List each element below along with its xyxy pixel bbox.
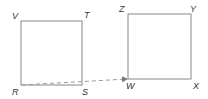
label-v: V [12, 11, 19, 21]
label-s: S [82, 87, 88, 97]
label-r: R [12, 87, 19, 97]
label-w: W [126, 81, 136, 91]
dashed-arrow-r-to-w [22, 79, 127, 85]
label-x: X [192, 81, 200, 91]
diagram-canvas: V T R S Z Y W X [0, 0, 208, 99]
square-rstv [21, 21, 82, 85]
label-z: Z [118, 4, 125, 14]
label-y: Y [190, 4, 197, 14]
label-t: T [84, 10, 91, 20]
square-wxyz [128, 14, 191, 79]
